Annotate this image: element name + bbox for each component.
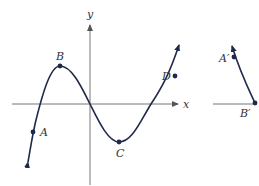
point-A [31,130,36,135]
point-B-prime [253,101,258,106]
derivative-panel: A′ B′ [213,46,257,120]
point-A-prime-label: A′ [218,52,230,65]
point-C [117,140,122,145]
point-C-label: C [116,147,125,160]
cubic-graph-diagram: x y A B C D A′ B′ [0,0,259,186]
point-D-label: D [161,70,171,83]
point-D [173,74,178,79]
derivative-segment [232,46,255,103]
x-axis-label: x [183,98,190,111]
point-B-prime-label: B′ [239,107,251,120]
main-axes: x y [12,8,190,185]
point-A-prime [232,55,237,60]
point-A-label: A [39,126,48,139]
point-B-label: B [55,50,64,63]
point-B [58,64,63,69]
curve-points: A B C D [31,50,178,160]
y-axis-label: y [86,8,94,21]
